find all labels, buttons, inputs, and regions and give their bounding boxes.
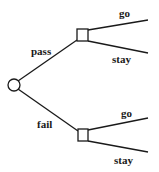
label-fail-go: go [121,107,133,119]
root-chance-node [8,79,20,91]
edge-pass-go [88,20,148,30]
label-pass-go: go [119,7,131,19]
label-fail-stay: stay [114,154,133,166]
label-pass-stay: stay [112,53,131,65]
decision-node-pass [77,29,88,41]
decision-tree-diagram: pass fail go stay go stay [0,0,159,172]
edge-fail-go [88,118,148,130]
decision-node-fail [78,129,88,141]
label-pass: pass [31,45,52,57]
edge-fail-stay [88,141,148,152]
edge-pass-stay [88,41,148,53]
label-fail: fail [37,118,52,130]
